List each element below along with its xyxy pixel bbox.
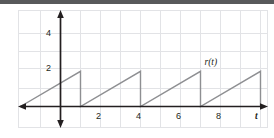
x-tick-label-2: 2 xyxy=(96,112,101,121)
x-tick-label-4: 4 xyxy=(136,112,141,121)
y-tick-label-4: 4 xyxy=(46,29,51,38)
x-tick-label-8: 8 xyxy=(216,112,221,121)
sawtooth-function-figure: 4 2 2 4 6 8 t r(t) xyxy=(0,0,274,138)
curve-label-rt: r(t) xyxy=(205,58,218,67)
x-axis-variable-label: t xyxy=(255,112,258,121)
y-tick-label-2: 2 xyxy=(46,64,51,73)
x-tick-label-6: 6 xyxy=(176,112,181,121)
